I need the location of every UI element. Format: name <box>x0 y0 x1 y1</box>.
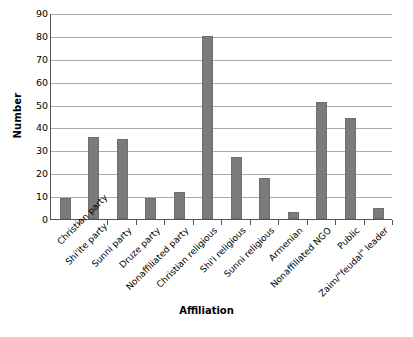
bar-slot <box>251 14 280 219</box>
bar-slot <box>194 14 223 219</box>
y-tick-label-50: 50 <box>26 101 48 111</box>
y-tick-label-10: 10 <box>26 192 48 202</box>
x-axis-title: Affiliation <box>0 305 413 316</box>
bar-slot <box>222 14 251 219</box>
bar <box>202 36 213 219</box>
y-axis-title-text: Number <box>13 92 24 138</box>
y-tick-label-80: 80 <box>26 32 48 42</box>
bar-slot <box>165 14 194 219</box>
bar <box>316 102 327 219</box>
bars-layer <box>51 14 392 219</box>
bar-slot <box>51 14 80 219</box>
y-axis-tick-labels: 0102030405060708090 <box>26 14 48 220</box>
bar-slot <box>308 14 337 219</box>
x-tick-mark <box>107 220 108 225</box>
bar <box>288 212 299 219</box>
bar-slot <box>80 14 109 219</box>
bar-slot <box>279 14 308 219</box>
bar-slot <box>336 14 365 219</box>
bar <box>231 157 242 219</box>
bar <box>60 198 71 219</box>
bar-slot <box>365 14 394 219</box>
x-tick-mark <box>193 220 194 225</box>
y-tick-label-40: 40 <box>26 124 48 134</box>
bar <box>345 118 356 219</box>
bar-chart-figure: Number 0102030405060708090 Christian par… <box>0 0 413 337</box>
bar <box>174 192 185 219</box>
bar <box>117 139 128 219</box>
x-tick-mark <box>278 220 279 225</box>
x-tick-mark <box>335 220 336 225</box>
y-tick-label-60: 60 <box>26 78 48 88</box>
x-tick-mark <box>164 220 165 225</box>
x-tick-mark <box>221 220 222 225</box>
x-axis-tick-labels: Christian partyShi'ite partySunni partyD… <box>50 226 410 311</box>
x-tick-mark <box>250 220 251 225</box>
x-tick-mark <box>136 220 137 225</box>
y-tick-label-20: 20 <box>26 169 48 179</box>
x-tick-label: Christian party <box>56 226 77 247</box>
x-tick-mark <box>392 220 393 225</box>
bar-slot <box>108 14 137 219</box>
bar <box>259 178 270 219</box>
bar <box>373 208 384 219</box>
y-tick-label-90: 90 <box>26 9 48 19</box>
bar-slot <box>137 14 166 219</box>
y-tick-label-0: 0 <box>26 215 48 225</box>
x-tick-mark <box>307 220 308 225</box>
bar <box>145 198 156 219</box>
x-axis-title-text: Affiliation <box>179 305 234 316</box>
y-tick-label-30: 30 <box>26 147 48 157</box>
plot-area <box>50 14 392 220</box>
x-tick-mark <box>364 220 365 225</box>
y-axis-title: Number <box>8 0 28 230</box>
y-tick-label-70: 70 <box>26 55 48 65</box>
